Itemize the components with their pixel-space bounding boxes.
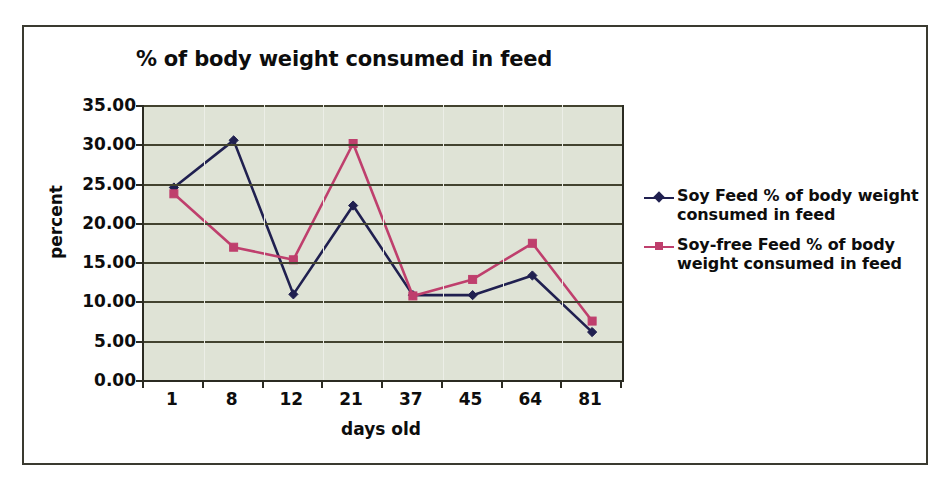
x-tick-label: 81: [560, 389, 620, 409]
y-tick-mark: [136, 223, 143, 225]
category-separator: [264, 105, 265, 380]
y-tick-label: 15.00: [44, 252, 136, 272]
y-tick-mark: [136, 341, 143, 343]
x-tick-label: 21: [321, 389, 381, 409]
x-tick-label: 8: [202, 389, 262, 409]
legend-label: Soy Feed % of body weight consumed in fe…: [677, 187, 924, 225]
category-separator: [204, 105, 205, 380]
x-tick-mark: [142, 380, 144, 388]
data-point-marker: [588, 317, 596, 325]
y-tick-mark: [136, 144, 143, 146]
x-tick-label: 12: [261, 389, 321, 409]
data-point-marker: [230, 243, 238, 251]
legend-item[interactable]: Soy Feed % of body weight consumed in fe…: [644, 187, 924, 225]
category-separator: [562, 105, 563, 380]
legend-label: Soy-free Feed % of body weight consumed …: [677, 236, 924, 274]
category-separator: [383, 105, 384, 380]
y-tick-mark: [136, 105, 143, 107]
data-point-marker: [469, 275, 477, 283]
legend-diamond-marker-icon: [644, 188, 674, 208]
y-axis-tick-labels: 35.0030.0025.0020.0015.0010.005.000.00: [34, 105, 136, 380]
category-separator: [323, 105, 324, 380]
y-tick-label: 0.00: [44, 370, 136, 390]
y-tick-label: 5.00: [44, 331, 136, 351]
x-tick-label: 37: [381, 389, 441, 409]
category-separator: [443, 105, 444, 380]
x-tick-mark: [321, 380, 323, 388]
x-tick-label: 1: [142, 389, 202, 409]
y-tick-label: 35.00: [44, 95, 136, 115]
chart-page: % of body weight consumed in feed percen…: [0, 0, 952, 488]
data-point-marker: [409, 292, 417, 300]
chart-legend: Soy Feed % of body weight consumed in fe…: [644, 187, 924, 285]
x-tick-mark: [381, 380, 383, 388]
legend-item[interactable]: Soy-free Feed % of body weight consumed …: [644, 236, 924, 274]
x-axis-title: days old: [142, 419, 620, 439]
chart-frame: % of body weight consumed in feed percen…: [22, 25, 928, 465]
y-tick-label: 10.00: [44, 291, 136, 311]
x-tick-mark: [560, 380, 562, 388]
x-tick-mark: [501, 380, 503, 388]
y-tick-mark: [136, 301, 143, 303]
y-tick-mark: [136, 184, 143, 186]
x-axis-tick-labels: 18122137456481: [142, 389, 620, 413]
data-point-marker: [528, 239, 536, 247]
legend-marker-swatch: [655, 242, 663, 250]
x-tick-label: 45: [441, 389, 501, 409]
legend-marker-swatch: [653, 191, 664, 202]
y-tick-label: 20.00: [44, 213, 136, 233]
data-point-marker: [170, 190, 178, 198]
x-tick-mark: [441, 380, 443, 388]
category-separator: [503, 105, 504, 380]
x-tick-mark: [262, 380, 264, 388]
x-tick-label: 64: [500, 389, 560, 409]
legend-square-marker-icon: [644, 237, 674, 257]
y-tick-mark: [136, 262, 143, 264]
plot-area: [142, 105, 624, 382]
x-tick-mark: [202, 380, 204, 388]
chart-title: % of body weight consumed in feed: [24, 47, 664, 71]
y-tick-label: 25.00: [44, 174, 136, 194]
x-tick-mark: [620, 380, 622, 388]
y-tick-label: 30.00: [44, 134, 136, 154]
data-point-marker: [468, 291, 477, 300]
